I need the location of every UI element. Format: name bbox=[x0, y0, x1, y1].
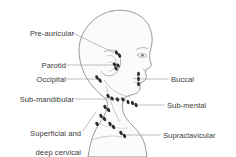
label-line-2: deep cervical bbox=[36, 148, 81, 157]
label-pre-auricular: Pre-auricular bbox=[14, 29, 74, 38]
lymph-node bbox=[134, 102, 138, 107]
label-sub-mandibular: Sub-mandibular bbox=[3, 95, 74, 104]
eye-pupil bbox=[141, 54, 143, 56]
lymph-node bbox=[130, 100, 134, 105]
label-buccal: Buccal bbox=[171, 75, 231, 84]
lymph-node bbox=[126, 99, 130, 104]
node-group-sub-mental bbox=[126, 99, 138, 107]
label-occipital: Occipital bbox=[18, 75, 66, 84]
node-group-buccal bbox=[137, 72, 140, 86]
label-sub-mental: Sub-mental bbox=[167, 101, 233, 110]
label-supraclavicular: Supraclavicular bbox=[163, 131, 235, 140]
lymph-node bbox=[137, 77, 140, 81]
lymph-node bbox=[137, 82, 140, 86]
label-parotid: Parotid bbox=[20, 61, 66, 70]
lymph-node-diagram: Pre-auricular Parotid Occipital Sub-mand… bbox=[0, 0, 236, 157]
label-line-1: Superficial and bbox=[30, 129, 81, 138]
leader-superficial-deep-cervical bbox=[83, 112, 96, 131]
label-superficial-and-deep-cervical: Superficial and deep cervical bbox=[8, 120, 81, 157]
lymph-node bbox=[137, 72, 140, 76]
